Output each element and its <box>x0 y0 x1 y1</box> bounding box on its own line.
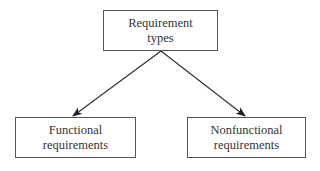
node-label-line: Nonfunctional <box>210 123 282 138</box>
arrow-to-functional <box>73 51 161 116</box>
diagram-canvas: Requirement types Functional requirement… <box>0 0 320 171</box>
node-label-line: types <box>147 31 173 46</box>
node-label-line: Requirement <box>128 16 193 31</box>
node-label-line: Functional <box>49 123 102 138</box>
node-requirement-types: Requirement types <box>103 10 218 51</box>
node-functional-requirements: Functional requirements <box>15 117 136 158</box>
node-nonfunctional-requirements: Nonfunctional requirements <box>187 117 306 158</box>
arrow-to-nonfunctional <box>161 51 245 116</box>
node-label-line: requirements <box>43 138 108 153</box>
node-label-line: requirements <box>214 138 279 153</box>
